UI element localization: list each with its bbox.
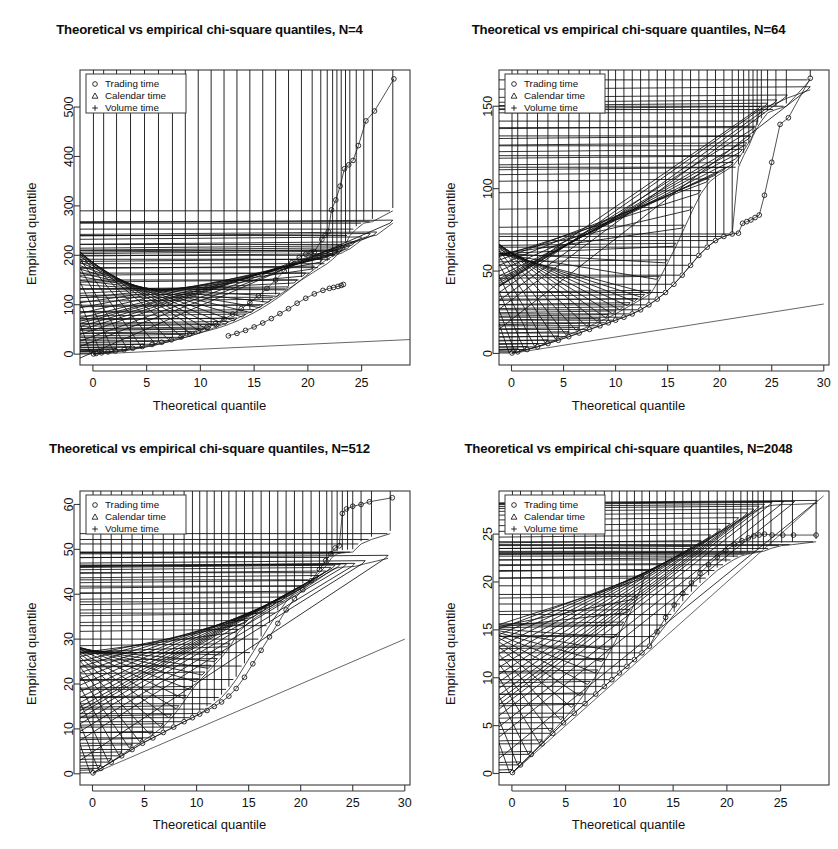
svg-text:10: 10	[609, 376, 623, 390]
svg-text:0: 0	[89, 376, 96, 390]
svg-text:0: 0	[508, 376, 515, 390]
panel-n4: Theoretical vs empirical chi-square quan…	[0, 0, 419, 425]
svg-text:Trading time: Trading time	[524, 78, 579, 89]
svg-text:Calendar time: Calendar time	[524, 511, 586, 522]
svg-text:20: 20	[294, 796, 308, 810]
svg-text:5: 5	[141, 796, 148, 810]
panel-n2048: Theoretical vs empirical chi-square quan…	[419, 425, 838, 849]
svg-text:Calendar time: Calendar time	[105, 90, 167, 101]
figure-grid: Theoretical vs empirical chi-square quan…	[0, 0, 838, 849]
plot-area-n512: 0510152025300102030405060Trading timeCal…	[0, 425, 419, 849]
svg-text:5: 5	[560, 376, 567, 390]
svg-text:20: 20	[301, 376, 315, 390]
svg-text:25: 25	[346, 796, 360, 810]
svg-text:10: 10	[193, 376, 207, 390]
svg-text:25: 25	[774, 796, 788, 810]
svg-text:15: 15	[666, 796, 680, 810]
svg-text:Trading time: Trading time	[105, 499, 160, 510]
svg-text:10: 10	[612, 796, 626, 810]
svg-text:Volume time: Volume time	[524, 102, 578, 113]
svg-text:25: 25	[765, 376, 779, 390]
svg-text:30: 30	[398, 796, 412, 810]
svg-text:0: 0	[508, 796, 515, 810]
svg-text:Trading time: Trading time	[105, 78, 160, 89]
svg-text:Volume time: Volume time	[524, 523, 578, 534]
plot-area-n2048: 05101520250510152025Trading timeCalendar…	[419, 425, 838, 849]
svg-text:Volume time: Volume time	[105, 102, 159, 113]
svg-text:5: 5	[562, 796, 569, 810]
svg-text:25: 25	[355, 376, 369, 390]
panel-n64: Theoretical vs empirical chi-square quan…	[419, 0, 838, 425]
svg-text:15: 15	[247, 376, 261, 390]
svg-text:20: 20	[713, 376, 727, 390]
svg-text:0: 0	[89, 796, 96, 810]
svg-text:Trading time: Trading time	[524, 499, 579, 510]
svg-text:5: 5	[143, 376, 150, 390]
plot-area-n64: 051015202530050100150Trading timeCalenda…	[419, 0, 838, 425]
svg-text:Calendar time: Calendar time	[105, 511, 167, 522]
svg-text:20: 20	[720, 796, 734, 810]
panel-n512: Theoretical vs empirical chi-square quan…	[0, 425, 419, 849]
svg-text:15: 15	[661, 376, 675, 390]
svg-text:30: 30	[817, 376, 831, 390]
svg-text:15: 15	[242, 796, 256, 810]
plot-area-n4: 05101520250100200300400500Trading timeCa…	[0, 0, 419, 425]
svg-text:Volume time: Volume time	[105, 523, 159, 534]
svg-text:Calendar time: Calendar time	[524, 90, 586, 101]
svg-text:10: 10	[190, 796, 204, 810]
